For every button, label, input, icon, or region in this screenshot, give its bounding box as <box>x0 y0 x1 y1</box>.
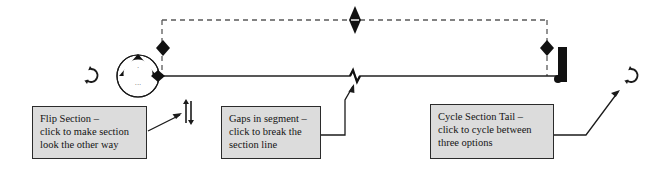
leader-tail-arrowhead <box>611 90 620 97</box>
leader-tail-line <box>554 92 618 135</box>
leader-tail <box>554 90 620 135</box>
section-tail-ball <box>554 75 562 83</box>
diamond-grip-left-glyph <box>156 40 170 56</box>
rotate-left-arrowhead <box>88 66 92 70</box>
flip-arrow-head-up <box>183 99 189 104</box>
section-tail-bar[interactable] <box>554 47 567 83</box>
callout-flip-section[interactable]: Flip Section – click to make section loo… <box>32 106 147 159</box>
section-head-mark-2: · <box>137 64 139 71</box>
callout-gaps-in-segment[interactable]: Gaps in segment – click to break the sec… <box>221 106 321 159</box>
flip-double-arrow-icon[interactable] <box>183 99 194 125</box>
section-line-path <box>128 71 560 81</box>
diamond-grip-left[interactable] <box>156 40 170 56</box>
horizontal-section-line[interactable] <box>128 71 560 81</box>
section-head-sheet-2: ··· <box>135 81 142 88</box>
rotate-icon-left[interactable] <box>84 66 97 84</box>
diamond-grip-right[interactable] <box>540 40 554 56</box>
rotate-right-arrowhead <box>628 66 632 70</box>
leader-flip <box>148 113 182 131</box>
zigzag-gap-break[interactable] <box>350 70 360 82</box>
diamond-grip-right-glyph <box>540 40 554 56</box>
flip-arrow-head-down <box>188 120 194 125</box>
gap-break-glyph <box>350 70 360 82</box>
leader-gaps <box>321 84 354 135</box>
leader-gaps-arrowhead <box>348 84 354 93</box>
diamond-grip-top[interactable] <box>349 6 361 34</box>
rotate-icon-right[interactable] <box>624 66 637 84</box>
leader-gaps-line <box>321 86 353 135</box>
callout-cycle-section-tail[interactable]: Cycle Section Tail – click to cycle betw… <box>430 104 554 159</box>
